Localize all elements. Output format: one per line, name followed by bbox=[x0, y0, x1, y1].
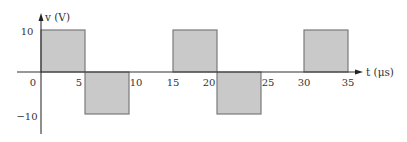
pulse-5-10-negative bbox=[85, 72, 129, 114]
x-tick-5: 5 bbox=[76, 77, 82, 88]
x-tick-20: 20 bbox=[203, 77, 216, 88]
x-tick-30: 30 bbox=[298, 77, 311, 88]
y-tick-10: 10 bbox=[21, 26, 34, 37]
square-wave-chart: v (V) t (μs) 10 −10 0 5 10 15 20 25 30 3… bbox=[0, 0, 407, 142]
x-tick-0: 0 bbox=[30, 77, 36, 88]
pulse-0-5-positive bbox=[41, 30, 85, 72]
y-tick-neg10: −10 bbox=[16, 111, 37, 122]
x-tick-10: 10 bbox=[130, 77, 143, 88]
y-axis-arrow-icon bbox=[39, 13, 44, 21]
pulse-15-20-positive bbox=[173, 30, 217, 72]
x-axis-arrow-icon bbox=[355, 70, 363, 75]
y-axis-label: v (V) bbox=[44, 11, 70, 23]
pulse-20-25-negative bbox=[217, 72, 261, 114]
x-axis-label: t (μs) bbox=[366, 66, 394, 78]
x-tick-25: 25 bbox=[262, 77, 275, 88]
x-tick-35: 35 bbox=[342, 77, 355, 88]
pulse-30-35-positive bbox=[304, 30, 348, 72]
x-tick-15: 15 bbox=[167, 77, 180, 88]
